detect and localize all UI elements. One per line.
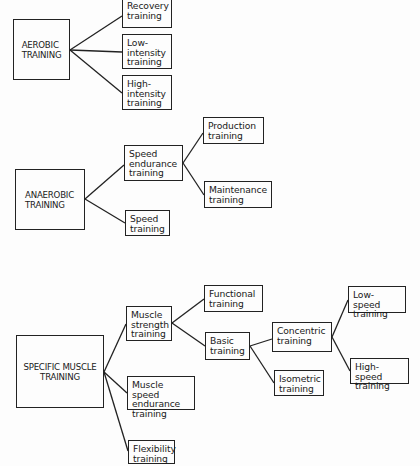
connector-basic-isometric xyxy=(250,346,274,383)
low-speed-training-node: Low-speed training xyxy=(348,286,406,313)
functional-training-node: Functional training xyxy=(204,285,263,312)
connector-basic-concentric xyxy=(250,339,272,346)
connector-speed-endurance-production xyxy=(183,133,203,163)
connector-anaerobic-speed xyxy=(85,199,125,223)
high-speed-training-node: High-speed training xyxy=(350,358,409,384)
flexibility-training-node: Flexibility training xyxy=(128,440,175,464)
maintenance-training-node: Maintenance training xyxy=(204,181,272,208)
connector-concentric-high-speed xyxy=(332,337,350,371)
connector-anaerobic-speed-endurance xyxy=(85,165,124,199)
recovery-training-node: Recovery training xyxy=(122,0,172,28)
connector-strength-basic xyxy=(172,323,205,346)
production-training-node: Production training xyxy=(203,117,264,144)
low-intensity-training-node: Low- intensity training xyxy=(122,34,172,69)
training-hierarchy-diagram: AEROBIC TRAINING Recovery training Low- … xyxy=(0,0,420,466)
basic-training-node: Basic training xyxy=(205,332,250,360)
connector-aerobic-high-intensity xyxy=(70,50,122,93)
connector-strength-functional xyxy=(172,299,204,323)
anaerobic-training-node: ANAEROBIC TRAINING xyxy=(15,169,85,230)
aerobic-training-node: AEROBIC TRAINING xyxy=(13,19,70,80)
concentric-training-node: Concentric training xyxy=(272,322,332,352)
speed-endurance-training-node: Speed endurance training xyxy=(124,145,183,181)
connector-specific-flexibility xyxy=(104,372,128,451)
high-intensity-training-node: High- intensity training xyxy=(122,75,172,110)
connector-concentric-low-speed xyxy=(332,300,348,337)
muscle-strength-training-node: Muscle strength training xyxy=(126,306,172,341)
speed-training-node: Speed training xyxy=(125,210,170,236)
connector-specific-muscle-strength xyxy=(104,324,126,372)
muscle-speed-endurance-training-node: Muscle speed endurance training xyxy=(127,376,195,410)
isometric-training-node: Isometric training xyxy=(274,370,324,396)
specific-muscle-training-node: SPECIFIC MUSCLE TRAINING xyxy=(16,335,104,408)
connector-speed-endurance-maintenance xyxy=(183,163,204,195)
connector-aerobic-low-intensity xyxy=(70,50,122,52)
connector-aerobic-recovery xyxy=(70,16,122,50)
